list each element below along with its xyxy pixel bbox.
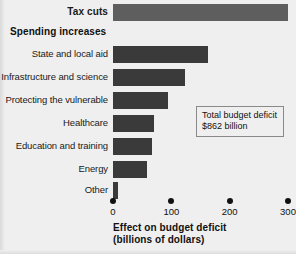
bar-row: State and local aid	[0, 44, 296, 64]
bar-row-label: Other	[0, 180, 108, 200]
x-axis-title-line2: (billions of dollars)	[113, 234, 227, 246]
section-header-spending-increases: Spending increases	[10, 22, 106, 42]
bar-row-label: Infrastructure and science	[0, 67, 108, 87]
tick-dot-icon	[285, 198, 291, 204]
tick-dot-icon	[227, 198, 233, 204]
tick-dot-icon	[110, 198, 116, 204]
bar	[113, 115, 154, 132]
x-axis-tick-label: 100	[163, 206, 179, 217]
bar-chart-figure: Tax cutsState and local aidInfrastructur…	[0, 0, 296, 254]
bar	[113, 69, 185, 86]
tick-dot-icon	[168, 198, 174, 204]
bar-row-label: Protecting the vulnerable	[0, 90, 108, 110]
bar-row-label: State and local aid	[0, 44, 108, 64]
plot-area: Tax cutsState and local aidInfrastructur…	[0, 0, 296, 254]
bar-row-label: Energy	[0, 159, 108, 179]
bar	[113, 46, 208, 63]
bar-row: Education and training	[0, 136, 296, 156]
bar	[113, 4, 288, 21]
x-axis-title: Effect on budget deficit (billions of do…	[113, 222, 227, 245]
x-axis-title-line1: Effect on budget deficit	[113, 222, 227, 234]
bar	[113, 161, 147, 178]
bar-row: Tax cuts	[0, 2, 296, 22]
annotation-line1: Total budget deficit	[202, 110, 279, 121]
x-axis-tick-label: 200	[222, 206, 238, 217]
bar	[113, 138, 152, 155]
x-axis-tick-label: 300	[280, 206, 296, 217]
bar-row-label: Tax cuts	[0, 2, 108, 22]
bar-row-label: Education and training	[0, 136, 108, 156]
bar-row-label: Healthcare	[0, 113, 108, 133]
annotation-line2: $862 billion	[202, 121, 279, 132]
bar-row: Other	[0, 180, 296, 200]
total-deficit-annotation: Total budget deficit $862 billion	[196, 106, 284, 137]
x-axis: 0100200300	[0, 198, 296, 222]
x-axis-tick-label: 0	[110, 206, 115, 217]
bar-row: Infrastructure and science	[0, 67, 296, 87]
bar	[113, 92, 168, 109]
bar	[113, 182, 118, 199]
bar-row: Energy	[0, 159, 296, 179]
